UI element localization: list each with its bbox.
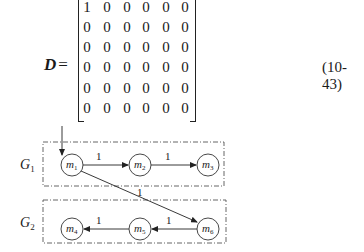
edge-weight: 1 [96,214,102,226]
edge-weight: 1 [165,150,171,162]
group-label-g1: G1 [20,157,35,174]
edge-weight: 1 [137,186,143,198]
group-label-g2: G2 [20,215,35,232]
edge-weight: 1 [96,150,102,162]
state-diagram: 1 1 1 1 1 m1 m2 m3 m4 m5 m6 G1 G2 [0,0,364,252]
edge-weight: 1 [166,214,172,226]
